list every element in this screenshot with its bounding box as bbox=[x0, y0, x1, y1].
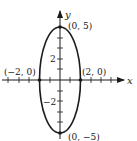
ellipse-diagram: y x 2 −2 (0, 5) (0, −5) (−2, 0) (2, 0) bbox=[0, 0, 137, 141]
point-right-covertex bbox=[79, 78, 83, 82]
tick-label-y-2: 2 bbox=[50, 54, 56, 64]
label-left-covertex: (−2, 0) bbox=[4, 67, 36, 77]
point-top-vertex bbox=[58, 25, 62, 29]
point-bottom-vertex bbox=[58, 131, 62, 135]
y-axis-label: y bbox=[64, 9, 71, 20]
label-right-covertex: (2, 0) bbox=[82, 67, 106, 77]
tick-label-y-neg2: −2 bbox=[43, 97, 56, 107]
x-axis-label: x bbox=[127, 75, 133, 86]
label-top-vertex: (0, 5) bbox=[68, 21, 92, 31]
label-bottom-vertex: (0, −5) bbox=[68, 132, 100, 141]
point-left-covertex bbox=[38, 78, 42, 82]
